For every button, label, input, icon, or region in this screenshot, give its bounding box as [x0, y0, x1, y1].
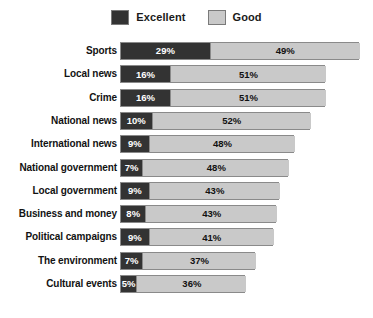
bar-segment-excellent[interactable]: 10% [121, 113, 152, 129]
bar-segment-excellent[interactable]: 9% [121, 136, 149, 152]
category-label: Local government [32, 182, 117, 200]
bar-value-label: 7% [125, 256, 139, 266]
bar-segment-good[interactable]: 48% [149, 136, 296, 152]
chart-row: Sports29%49% [0, 42, 373, 60]
bar-segment-good[interactable]: 37% [142, 253, 255, 269]
bar-segment-good[interactable]: 52% [152, 113, 311, 129]
stacked-bar[interactable]: 7%48% [120, 159, 288, 177]
bar-value-label: 51% [239, 70, 258, 80]
category-label: International news [31, 135, 117, 153]
stacked-bar[interactable]: 9%41% [120, 228, 273, 246]
chart-row: Political campaigns9%41% [0, 228, 373, 246]
bar-value-label: 51% [239, 93, 258, 103]
bar-segment-good[interactable]: 43% [149, 183, 281, 199]
category-label: Political campaigns [26, 228, 117, 246]
category-label: Crime [89, 89, 117, 107]
bar-value-label: 9% [128, 186, 142, 196]
bar-segment-excellent[interactable]: 16% [121, 66, 170, 82]
category-label: The environment [38, 252, 117, 270]
bar-segment-good[interactable]: 43% [145, 206, 277, 222]
bar-value-label: 52% [222, 116, 241, 126]
bar-value-label: 36% [182, 279, 201, 289]
bar-value-label: 48% [213, 139, 232, 149]
category-label: National news [51, 112, 117, 130]
chart-row: National government7%48% [0, 159, 373, 177]
legend-swatch-good [208, 10, 226, 25]
stacked-bar[interactable]: 8%43% [120, 205, 276, 223]
stacked-bar[interactable]: 9%48% [120, 135, 294, 153]
bar-value-label: 43% [205, 186, 224, 196]
bar-segment-good[interactable]: 51% [170, 66, 326, 82]
category-label: National government [19, 159, 117, 177]
chart-row: National news10%52% [0, 112, 373, 130]
bar-segment-excellent[interactable]: 9% [121, 229, 149, 245]
bar-segment-excellent[interactable]: 9% [121, 183, 149, 199]
bar-segment-good[interactable]: 36% [136, 276, 246, 292]
chart-row: Local news16%51% [0, 65, 373, 83]
bar-value-label: 37% [190, 256, 209, 266]
bar-value-label: 5% [122, 279, 136, 289]
bar-value-label: 41% [202, 233, 221, 243]
chart-row: Business and money8%43% [0, 205, 373, 223]
bar-value-label: 8% [126, 209, 140, 219]
bar-segment-good[interactable]: 49% [210, 43, 360, 59]
chart-row: International news9%48% [0, 135, 373, 153]
stacked-bar[interactable]: 16%51% [120, 65, 325, 83]
stacked-bar[interactable]: 5%36% [120, 275, 245, 293]
stacked-bar[interactable]: 10%52% [120, 112, 310, 130]
bar-segment-good[interactable]: 48% [142, 160, 289, 176]
legend-swatch-excellent [111, 10, 129, 25]
legend-label: Good [233, 12, 262, 23]
bar-value-label: 48% [207, 163, 226, 173]
stacked-bar[interactable]: 29%49% [120, 42, 359, 60]
chart-legend: ExcellentGood [0, 10, 373, 25]
bar-value-label: 49% [276, 46, 295, 56]
bar-segment-good[interactable]: 51% [170, 90, 326, 106]
bar-segment-excellent[interactable]: 7% [121, 160, 142, 176]
bar-value-label: 7% [125, 163, 139, 173]
chart-row: Crime16%51% [0, 89, 373, 107]
bar-segment-excellent[interactable]: 5% [121, 276, 136, 292]
legend-entry[interactable]: Good [208, 10, 262, 25]
bar-segment-excellent[interactable]: 7% [121, 253, 142, 269]
bar-value-label: 29% [156, 46, 175, 56]
bar-value-label: 16% [136, 93, 155, 103]
stacked-bar[interactable]: 16%51% [120, 89, 325, 107]
bar-segment-excellent[interactable]: 8% [121, 206, 145, 222]
stacked-bar[interactable]: 9%43% [120, 182, 279, 200]
bar-value-label: 10% [127, 116, 146, 126]
bar-value-label: 43% [202, 209, 221, 219]
bar-segment-excellent[interactable]: 16% [121, 90, 170, 106]
chart-plot-area: Sports29%49%Local news16%51%Crime16%51%N… [0, 38, 373, 310]
legend-entry[interactable]: Excellent [111, 10, 185, 25]
stacked-bar-chart: ExcellentGood Sports29%49%Local news16%5… [0, 0, 373, 318]
chart-row: Cultural events5%36% [0, 275, 373, 293]
category-label: Cultural events [46, 275, 117, 293]
bar-value-label: 16% [136, 70, 155, 80]
bar-value-label: 9% [128, 139, 142, 149]
chart-row: The environment7%37% [0, 252, 373, 270]
legend-label: Excellent [136, 12, 185, 23]
category-label: Business and money [19, 205, 117, 223]
bar-value-label: 9% [128, 233, 142, 243]
bar-segment-excellent[interactable]: 29% [121, 43, 210, 59]
stacked-bar[interactable]: 7%37% [120, 252, 255, 270]
category-label: Sports [86, 42, 117, 60]
bar-segment-good[interactable]: 41% [149, 229, 274, 245]
chart-row: Local government9%43% [0, 182, 373, 200]
category-label: Local news [64, 65, 117, 83]
